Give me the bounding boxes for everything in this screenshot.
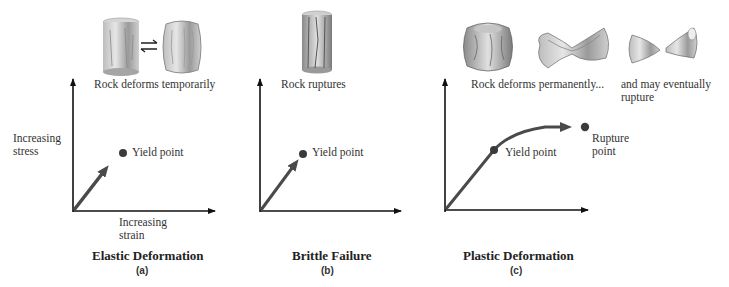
rock-barrel-icon	[464, 23, 513, 71]
brittle-curve-b	[261, 164, 295, 210]
yield-point-label-c: Yield point	[505, 146, 556, 158]
panel-label-b: (b)	[321, 265, 334, 276]
caption-rock-deforms-temporarily: Rock deforms temporarily	[94, 78, 215, 90]
rock-cylinder-deformed-icon	[163, 21, 201, 73]
rock-necked-icon	[539, 28, 609, 68]
reversible-arrows-icon	[141, 40, 157, 52]
yield-point-b	[299, 150, 307, 158]
yield-point-a	[119, 149, 127, 157]
rock-cylinder-original-icon	[103, 18, 139, 76]
y-axis-label: Increasing stress	[13, 132, 61, 158]
caption-may-eventually-rupture: and may eventually rupture	[621, 78, 711, 104]
panel-title-c: Plastic Deformation	[463, 248, 574, 264]
x-axis-label: Increasing strain	[119, 216, 167, 242]
yield-point-label-b: Yield point	[312, 146, 363, 158]
yield-point-label-a: Yield point	[132, 146, 183, 158]
panel-label-a: (a)	[136, 265, 148, 276]
yield-point-c	[490, 146, 498, 154]
rupture-point-c	[581, 123, 589, 131]
rock-ruptured-necked-icon	[629, 28, 697, 63]
panel-title-b: Brittle Failure	[292, 248, 372, 264]
plastic-curve-c	[446, 127, 566, 209]
panel-label-c: (c)	[510, 265, 522, 276]
caption-rock-ruptures: Rock ruptures	[281, 78, 346, 90]
caption-rock-deforms-permanently: Rock deforms permanently...	[471, 78, 604, 90]
panel-title-a: Elastic Deformation	[92, 248, 204, 264]
rock-ruptured-icon	[302, 11, 332, 74]
elastic-curve-a	[74, 170, 105, 210]
rupture-point-label-c: Rupture point	[592, 132, 629, 158]
